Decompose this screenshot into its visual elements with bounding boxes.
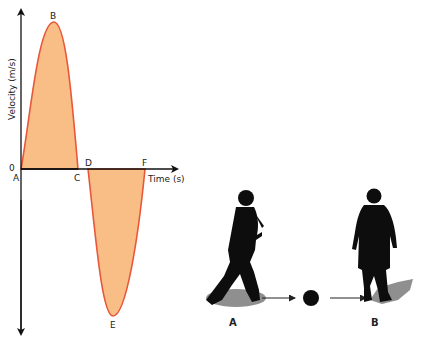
point-label-c: C (74, 173, 80, 183)
y-axis-label: Velocity (m/s) (7, 58, 17, 120)
player-b-silhouette (352, 189, 413, 305)
x-axis-label: Time (s) (147, 174, 185, 184)
origin-label: 0 (9, 163, 15, 173)
point-label-f: F (142, 158, 147, 168)
point-label-b: B (50, 11, 56, 21)
negative-velocity-area (88, 169, 145, 316)
velocity-time-diagram: Velocity (m/s) Time (s) 0 A B C D E F A … (0, 0, 429, 344)
ball (303, 290, 319, 306)
positive-velocity-area (21, 22, 78, 169)
player-a-label: A (229, 317, 237, 328)
player-a-silhouette (206, 190, 266, 307)
point-label-a: A (13, 173, 20, 183)
player-b-label: B (371, 317, 379, 328)
point-label-e: E (110, 320, 116, 330)
point-label-d: D (85, 158, 92, 168)
